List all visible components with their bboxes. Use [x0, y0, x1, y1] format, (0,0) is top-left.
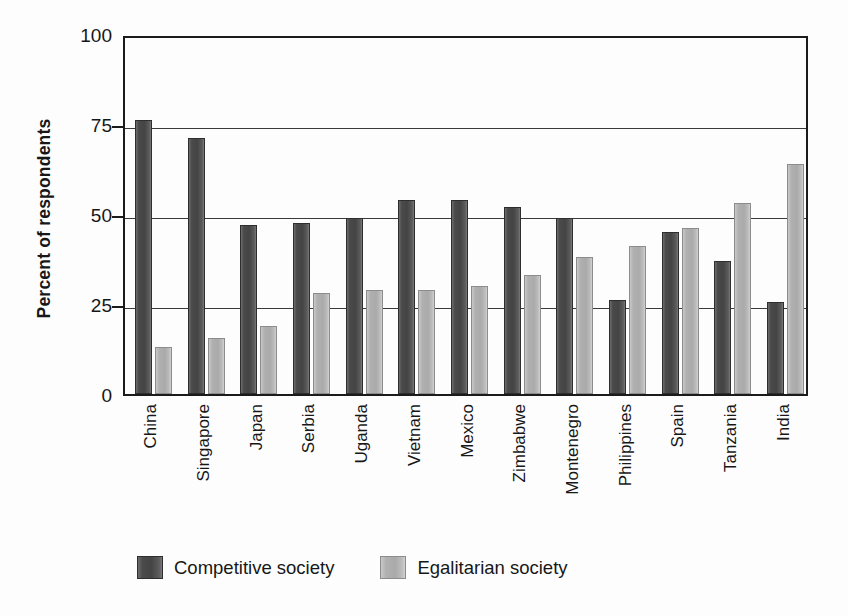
- legend-swatch-icon: [380, 556, 406, 579]
- bar: [313, 293, 330, 394]
- x-axis-label: Tanzania: [721, 404, 741, 472]
- x-axis-label-wrap: Serbia: [298, 404, 320, 534]
- x-axis-label-wrap: Singapore: [193, 404, 215, 534]
- x-axis-label-wrap: Montenegro: [562, 404, 584, 534]
- legend-item: Egalitarian society: [380, 556, 567, 579]
- legend-item: Competitive society: [137, 556, 334, 579]
- x-axis-label-wrap: Japan: [246, 404, 268, 534]
- x-axis-label-wrap: China: [140, 404, 162, 534]
- bar: [471, 286, 488, 394]
- x-axis-label: Vietnam: [405, 404, 425, 466]
- bar: [398, 200, 415, 394]
- x-axis-label-wrap: Spain: [667, 404, 689, 534]
- x-axis-label-wrap: Mexico: [457, 404, 479, 534]
- bar-group: [556, 38, 593, 394]
- bar: [576, 257, 593, 394]
- bar: [556, 218, 573, 394]
- y-tick-label-100: 100: [42, 25, 112, 47]
- bar: [714, 261, 731, 394]
- bar-group: [188, 38, 225, 394]
- bar: [155, 347, 172, 394]
- bar: [418, 290, 435, 394]
- bar: [504, 207, 521, 394]
- y-tick-25: [112, 306, 123, 308]
- x-axis-label-wrap: Uganda: [351, 404, 373, 534]
- x-axis-label: Singapore: [194, 404, 214, 482]
- bar: [240, 225, 257, 394]
- bar: [188, 138, 205, 394]
- x-axis-label-wrap: Tanzania: [720, 404, 742, 534]
- bar: [662, 232, 679, 394]
- bar: [682, 228, 699, 394]
- bar: [734, 203, 751, 394]
- legend-label: Egalitarian society: [417, 557, 567, 579]
- bar: [524, 275, 541, 394]
- legend-swatch-icon: [137, 556, 163, 579]
- bar-group: [240, 38, 277, 394]
- x-axis-label: Japan: [247, 404, 267, 450]
- x-axis-label: Serbia: [299, 404, 319, 453]
- bar-group: [504, 38, 541, 394]
- bar: [135, 120, 152, 394]
- bar-group: [135, 38, 172, 394]
- x-axis-label: Montenegro: [563, 404, 583, 495]
- x-axis-label: Philippines: [616, 404, 636, 486]
- x-axis-label: Mexico: [458, 404, 478, 458]
- bar: [293, 223, 310, 394]
- x-axis-label-wrap: India: [773, 404, 795, 534]
- x-axis-label: India: [774, 404, 794, 441]
- y-tick-label-0: 0: [42, 385, 112, 407]
- x-axis-label: China: [141, 404, 161, 448]
- bar-group: [451, 38, 488, 394]
- bar-group: [662, 38, 699, 394]
- bar-group: [398, 38, 435, 394]
- x-axis-label-wrap: Vietnam: [404, 404, 426, 534]
- bar: [208, 338, 225, 394]
- x-axis-label-wrap: Zimbabwe: [509, 404, 531, 534]
- x-axis-label: Zimbabwe: [510, 404, 530, 482]
- x-axis-label: Uganda: [352, 404, 372, 464]
- bar: [260, 326, 277, 394]
- bar: [787, 164, 804, 394]
- bar: [629, 246, 646, 394]
- bar: [346, 218, 363, 394]
- bar: [609, 300, 626, 394]
- y-tick-label-75: 75: [42, 115, 112, 137]
- bar-group: [346, 38, 383, 394]
- bar-chart-figure: Percent of respondents 0255075100 ChinaS…: [0, 0, 848, 616]
- x-axis-label-wrap: Philippines: [615, 404, 637, 534]
- bar-group: [767, 38, 804, 394]
- x-axis-label: Spain: [668, 404, 688, 447]
- y-tick-label-50: 50: [42, 205, 112, 227]
- bar: [767, 302, 784, 394]
- y-tick-label-25: 25: [42, 295, 112, 317]
- bar-group: [609, 38, 646, 394]
- bar: [366, 290, 383, 394]
- y-tick-75: [112, 126, 123, 128]
- plot-area: [123, 36, 808, 396]
- chart-legend: Competitive societyEgalitarian society: [137, 556, 568, 579]
- bar-group: [293, 38, 330, 394]
- bar-group: [714, 38, 751, 394]
- bar: [451, 200, 468, 394]
- legend-label: Competitive society: [174, 557, 334, 579]
- y-tick-50: [112, 216, 123, 218]
